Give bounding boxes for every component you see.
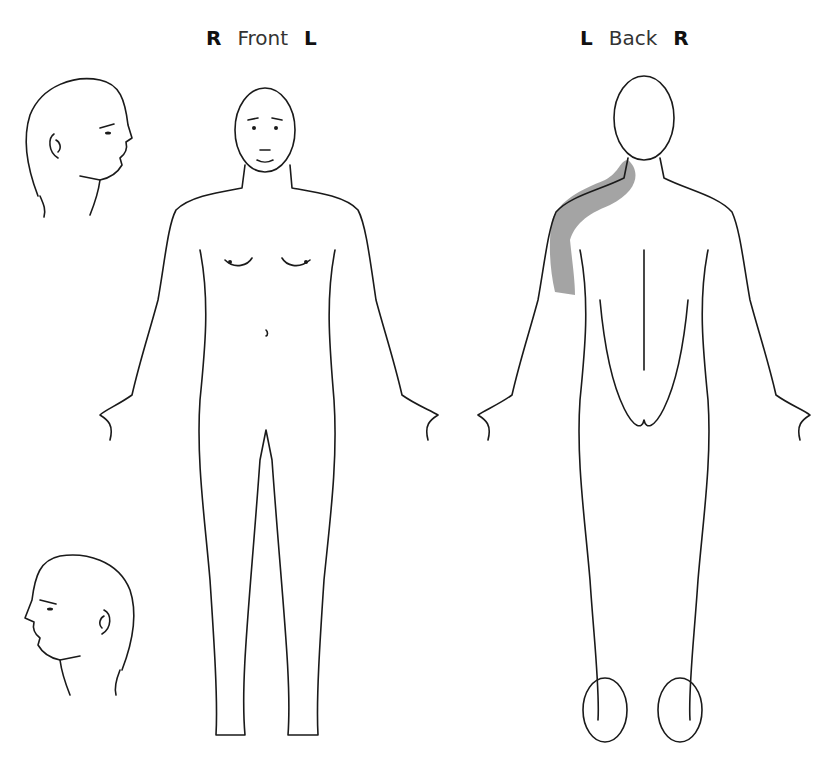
back-body — [478, 76, 810, 742]
head-profile-right — [26, 79, 132, 217]
head-profile-left — [25, 555, 134, 695]
pain-highlight-left-shoulder — [550, 160, 636, 295]
front-body — [100, 88, 438, 735]
body-diagram — [0, 0, 828, 761]
